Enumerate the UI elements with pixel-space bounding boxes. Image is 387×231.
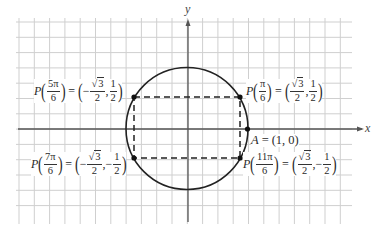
- paren: (: [75, 154, 80, 174]
- angle-fraction: 7π6: [44, 152, 57, 176]
- x-fraction: √32: [290, 79, 304, 103]
- denominator: 2: [111, 92, 116, 104]
- sign: −: [83, 85, 90, 97]
- angle-fraction: 5π6: [47, 79, 60, 103]
- label-p-5pi-6: P ( 5π6 ) = ( − √32 , 12 ): [34, 79, 122, 103]
- paren: ): [274, 154, 279, 174]
- numerator: 1: [323, 152, 330, 165]
- equals: =: [65, 158, 72, 170]
- comma: ,: [106, 85, 109, 97]
- y-fraction: 12: [113, 152, 120, 176]
- x-fraction: √32: [87, 152, 101, 176]
- denominator: 6: [51, 92, 56, 104]
- numerator: 3: [97, 77, 103, 89]
- x-fraction: √32: [298, 152, 312, 176]
- paren: (: [285, 81, 290, 101]
- y-fraction: 12: [323, 152, 330, 176]
- numerator: 3: [94, 150, 100, 162]
- y-fraction: 12: [110, 79, 117, 103]
- paren: (: [41, 81, 46, 101]
- point-5pi-6: [131, 94, 136, 99]
- label-p-7pi-6: P ( 7π6 ) = ( − √32 , − 12 ): [31, 152, 126, 176]
- y-axis-label: y: [185, 2, 190, 17]
- paren: ): [118, 81, 123, 101]
- numerator: 5π: [47, 79, 60, 92]
- paren: (: [250, 154, 255, 174]
- paren: (: [38, 154, 43, 174]
- paren: ): [332, 154, 337, 174]
- paren: (: [292, 154, 297, 174]
- numerator: π: [259, 79, 266, 92]
- numerator: 1: [110, 79, 117, 92]
- numerator: 1: [113, 152, 120, 165]
- denominator: 6: [260, 92, 265, 104]
- paren: (: [78, 81, 83, 101]
- equals: =: [262, 134, 269, 147]
- denominator: 2: [114, 165, 119, 177]
- label-p-pi-6: P ( π6 ) = ( √32 , 12 ): [246, 79, 322, 103]
- angle-fraction: 11π6: [256, 152, 273, 176]
- angle-fraction: π6: [259, 79, 266, 103]
- unit-circle-diagram: [0, 0, 387, 231]
- denominator: 2: [324, 165, 329, 177]
- label-p-11pi-6: P ( 11π6 ) = ( √32 , − 12 ): [243, 152, 336, 176]
- numerator: 11π: [256, 152, 273, 165]
- sign: −: [316, 158, 323, 170]
- denominator: 2: [310, 92, 315, 104]
- numerator: 1: [309, 79, 316, 92]
- y-fraction: 12: [309, 79, 316, 103]
- denominator: 6: [48, 165, 53, 177]
- point-pi-6: [237, 94, 242, 99]
- comma: ,: [305, 85, 308, 97]
- point-a: [245, 126, 250, 131]
- paren: (: [253, 81, 258, 101]
- denominator: 2: [295, 92, 300, 104]
- equals: =: [275, 85, 282, 97]
- coords: (1, 0): [272, 134, 299, 147]
- denominator: 2: [95, 92, 100, 104]
- sign: −: [106, 158, 113, 170]
- numerator: 3: [304, 150, 310, 162]
- x-axis-label: x: [365, 121, 370, 136]
- point-7pi-6: [131, 155, 136, 160]
- numerator: 7π: [44, 152, 57, 165]
- paren: ): [318, 81, 323, 101]
- paren: ): [267, 81, 272, 101]
- paren: ): [122, 154, 127, 174]
- point-name: A: [251, 134, 259, 147]
- equals: =: [68, 85, 75, 97]
- paren: ): [61, 81, 66, 101]
- grid: [16, 18, 352, 224]
- point-11pi-6: [237, 155, 242, 160]
- denominator: 6: [262, 165, 267, 177]
- denominator: 2: [302, 165, 307, 177]
- label-point-a: A = (1, 0): [251, 134, 299, 147]
- x-fraction: √32: [90, 79, 104, 103]
- numerator: 3: [297, 77, 303, 89]
- equals: =: [282, 158, 289, 170]
- denominator: 2: [92, 165, 97, 177]
- x-axis-arrow-icon: [357, 127, 364, 132]
- paren: ): [58, 154, 63, 174]
- sign: −: [80, 158, 87, 170]
